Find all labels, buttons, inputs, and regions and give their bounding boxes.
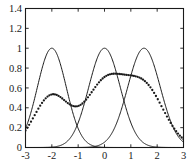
series-marker-mixture-sum [92, 88, 94, 90]
series-marker-mixture-sum [28, 124, 30, 126]
series-marker-mixture-sum [98, 81, 100, 83]
series-line-component-2 [26, 48, 184, 147]
series-marker-mixture-sum [173, 128, 175, 130]
series-marker-mixture-sum [153, 92, 155, 94]
y-tick-label: 1.4 [9, 3, 23, 14]
series-marker-mixture-sum [149, 86, 151, 88]
series-marker-mixture-sum [87, 96, 89, 98]
series-marker-mixture-sum [142, 79, 144, 81]
x-tick-label: -3 [21, 150, 30, 161]
y-tick-label: 0.4 [9, 102, 23, 113]
series-marker-mixture-sum [102, 77, 104, 79]
y-axis-tick-labels: 00.20.40.60.811.21.4 [9, 3, 23, 153]
x-axis-tick-labels: -3-2-10123 [21, 150, 186, 161]
y-tick-label: 0.8 [9, 63, 22, 74]
series-marker-mixture-sum [158, 102, 160, 104]
series-marker-mixture-sum [79, 104, 81, 106]
series-marker-mixture-sum [162, 108, 164, 110]
series-marker-mixture-sum [147, 84, 149, 86]
series-marker-mixture-sum [45, 97, 47, 99]
x-tick-label: 2 [155, 150, 160, 161]
series-marker-mixture-sum [181, 136, 183, 138]
series-marker-mixture-sum [144, 80, 146, 82]
series-marker-mixture-sum [96, 83, 98, 85]
y-tick-label: 0.2 [9, 122, 22, 133]
series-marker-mixture-sum [168, 119, 170, 121]
chart-figure: 00.20.40.60.811.21.4 -3-2-10123 [0, 0, 193, 168]
series-marker-mixture-sum [90, 91, 92, 93]
series-marker-mixture-sum [26, 127, 28, 129]
x-tick-label: -2 [47, 150, 56, 161]
series-marker-mixture-sum [166, 115, 168, 117]
series-marker-mixture-sum [24, 129, 26, 131]
series-marker-mixture-sum [81, 102, 83, 104]
series-marker-mixture-sum [171, 125, 173, 127]
x-tick-label: 0 [102, 150, 107, 161]
series-marker-mixture-sum [151, 89, 153, 91]
series-marker-mixture-sum [34, 114, 36, 116]
series-marker-mixture-sum [61, 97, 63, 99]
series-line-component-3 [26, 48, 184, 147]
series-marker-mixture-sum [160, 105, 162, 107]
series-marker-mixture-sum [94, 86, 96, 88]
series-marker-mixture-sum [41, 102, 43, 104]
series-line-component-1 [26, 48, 184, 147]
series-marker-mixture-sum [59, 96, 61, 98]
x-tick-label: 1 [128, 150, 133, 161]
series-marker-mixture-sum [43, 99, 45, 101]
plot-canvas: 00.20.40.60.811.21.4 -3-2-10123 [0, 0, 193, 168]
series-marker-mixture-sum [179, 135, 181, 137]
series-marker-mixture-sum [175, 130, 177, 132]
y-tick-label: 1 [17, 43, 22, 54]
y-tick-label: 0.6 [9, 83, 22, 94]
series-marker-mixture-sum [155, 95, 157, 97]
series-marker-mixture-sum [35, 111, 37, 113]
series-marker-mixture-sum [169, 122, 171, 124]
series-marker-mixture-sum [89, 94, 91, 96]
series-marker-mixture-sum [177, 132, 179, 134]
series-marker-mixture-sum [37, 108, 39, 110]
series-marker-mixture-sum [164, 112, 166, 114]
series-marker-mixture-sum [83, 101, 85, 103]
x-tick-label: -1 [74, 150, 83, 161]
series-marker-mixture-sum [32, 117, 34, 119]
series-marker-mixture-sum [63, 99, 65, 101]
series-marker-mixture-sum [85, 99, 87, 101]
series-marker-mixture-sum [182, 138, 184, 140]
y-tick-label: 1.2 [9, 23, 22, 34]
series-marker-mixture-sum [146, 82, 148, 84]
series-marker-mixture-sum [65, 100, 67, 102]
data-series-layer [24, 48, 184, 147]
series-marker-mixture-sum [30, 121, 32, 123]
x-tick-label: 3 [181, 150, 186, 161]
series-marker-mixture-sum [39, 105, 41, 107]
series-marker-mixture-sum [100, 79, 102, 81]
series-marker-mixture-sum [157, 98, 159, 100]
